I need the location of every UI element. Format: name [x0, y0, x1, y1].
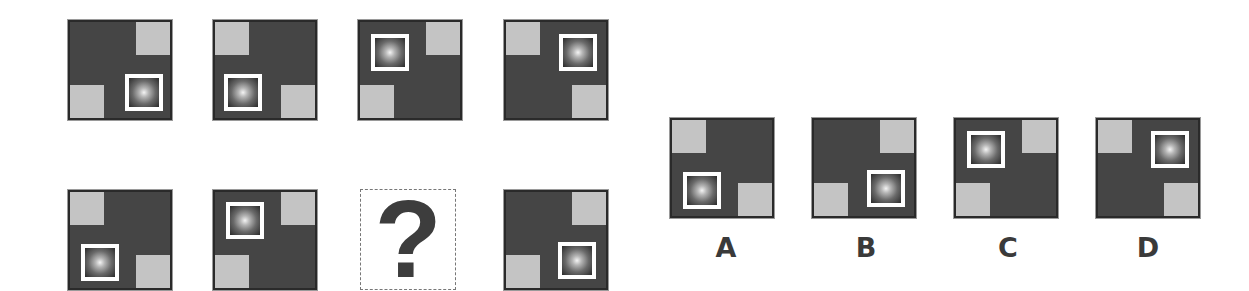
corner-square: [70, 85, 104, 118]
corner-square: [1164, 183, 1198, 216]
option-a-tile[interactable]: [670, 118, 774, 218]
sequence-tile-1-2: [213, 20, 317, 120]
option-a-label[interactable]: A: [674, 232, 778, 263]
sequence-tile-1-4: [504, 20, 608, 120]
light-square-icon: [81, 244, 119, 281]
corner-square: [572, 85, 606, 118]
corner-square: [672, 120, 706, 153]
corner-square: [506, 22, 540, 55]
option-c-label[interactable]: C: [956, 232, 1060, 263]
corner-square: [70, 192, 104, 225]
light-square-icon: [683, 172, 721, 209]
light-square-icon: [967, 131, 1005, 168]
corner-square: [136, 255, 170, 288]
question-mark: ?: [374, 189, 441, 289]
option-d-tile[interactable]: [1096, 118, 1200, 218]
option-b-tile[interactable]: [812, 118, 916, 218]
corner-square: [426, 22, 460, 55]
light-square-icon: [371, 34, 409, 71]
corner-square: [215, 255, 249, 288]
corner-square: [880, 120, 914, 153]
corner-square: [1098, 120, 1132, 153]
light-square-icon: [125, 74, 163, 111]
corner-square: [136, 22, 170, 55]
sequence-tile-1-3: [358, 20, 462, 120]
sequence-tile-2-1: [68, 190, 172, 290]
light-square-icon: [1151, 131, 1189, 168]
corner-square: [1022, 120, 1056, 153]
sequence-tile-1-1: [68, 20, 172, 120]
corner-square: [572, 192, 606, 225]
option-c-tile[interactable]: [954, 118, 1058, 218]
light-square-icon: [226, 202, 264, 239]
corner-square: [281, 192, 315, 225]
sequence-tile-2-2: [213, 190, 317, 290]
sequence-tile-2-4: [504, 190, 608, 290]
corner-square: [215, 22, 249, 55]
light-square-icon: [559, 34, 597, 71]
option-d-label[interactable]: D: [1096, 232, 1200, 263]
corner-square: [360, 85, 394, 118]
corner-square: [814, 183, 848, 216]
corner-square: [506, 255, 540, 288]
light-square-icon: [867, 170, 905, 207]
option-b-label[interactable]: B: [814, 232, 918, 263]
light-square-icon: [558, 242, 596, 279]
corner-square: [956, 183, 990, 216]
corner-square: [738, 183, 772, 216]
corner-square: [281, 85, 315, 118]
light-square-icon: [224, 74, 262, 111]
missing-tile: ?: [360, 189, 456, 290]
